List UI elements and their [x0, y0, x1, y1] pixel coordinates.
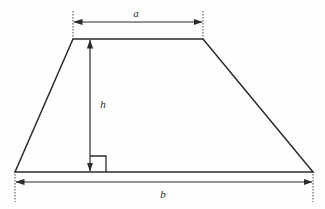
diagram-canvas: a b h [0, 0, 325, 209]
right-angle-marker-icon [90, 156, 106, 172]
label-b: b [160, 188, 166, 200]
trapezoid-outline [15, 39, 313, 172]
label-h: h [100, 98, 106, 110]
trapezoid-figure: a b h [0, 0, 325, 209]
label-a: a [133, 7, 139, 19]
